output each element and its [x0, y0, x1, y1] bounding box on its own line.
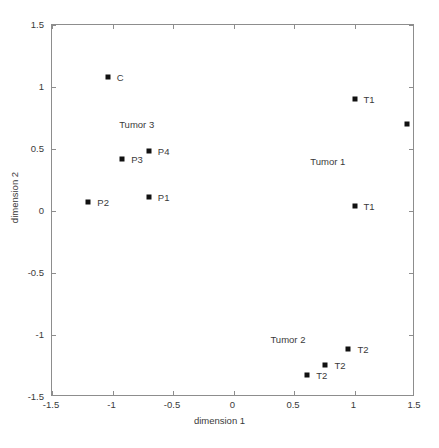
data-point-marker	[352, 204, 357, 209]
y-axis-tick	[409, 273, 413, 274]
data-point-label: T1	[364, 94, 375, 105]
y-axis-tick-label: -1	[36, 329, 44, 340]
x-axis-tick	[355, 391, 356, 395]
data-point-label: P1	[158, 192, 170, 203]
x-axis-tick-label: -1	[107, 399, 115, 410]
data-point-label: T2	[357, 343, 368, 354]
y-axis-tick	[52, 273, 56, 274]
x-axis-tick	[234, 391, 235, 395]
x-axis-tick	[294, 391, 295, 395]
scatter-plot-figure: CP4P3P1P2T1T1T1T2T2T2Tumor 3Tumor 1Tumor…	[0, 0, 439, 448]
x-axis-tick	[113, 391, 114, 395]
x-axis-tick-label: -0.5	[164, 399, 180, 410]
data-point-marker	[146, 195, 151, 200]
data-point-label: T2	[334, 359, 345, 370]
y-axis-tick-label: 1	[39, 81, 44, 92]
y-axis-tick-label: 0.5	[31, 143, 44, 154]
y-axis-tick	[52, 87, 56, 88]
data-point-marker	[352, 97, 357, 102]
data-point-marker	[86, 200, 91, 205]
y-axis-tick	[52, 149, 56, 150]
x-axis-tick-label: 1.5	[407, 399, 420, 410]
data-point-marker	[323, 362, 328, 367]
x-axis-tick	[234, 25, 235, 29]
group-annotation-label: Tumor 1	[310, 156, 345, 167]
data-point-marker	[146, 149, 151, 154]
x-axis-tick-label: 0	[230, 399, 235, 410]
data-point-marker	[305, 372, 310, 377]
plot-area: CP4P3P1P2T1T1T1T2T2T2Tumor 3Tumor 1Tumor…	[51, 24, 414, 396]
group-annotation-label: Tumor 2	[270, 333, 305, 344]
x-axis-tick-label: -1.5	[43, 399, 59, 410]
x-axis-tick	[52, 391, 53, 395]
data-point-label: P3	[131, 153, 143, 164]
data-point-label: T2	[316, 369, 327, 380]
x-axis-tick	[113, 25, 114, 29]
y-axis-tick	[409, 211, 413, 212]
y-axis-label: dimension 2	[9, 158, 20, 238]
data-point-label: P4	[158, 146, 170, 157]
data-point-marker	[120, 156, 125, 161]
y-axis-tick-label: -1.5	[28, 391, 44, 402]
data-point-label: T1	[364, 201, 375, 212]
y-axis-tick-label: 1.5	[31, 19, 44, 30]
y-axis-tick	[409, 87, 413, 88]
group-annotation-label: Tumor 3	[119, 119, 154, 130]
x-axis-tick-label: 0.5	[286, 399, 299, 410]
y-axis-tick	[409, 335, 413, 336]
x-axis-tick	[173, 391, 174, 395]
data-point-marker	[105, 75, 110, 80]
y-axis-tick	[52, 211, 56, 212]
y-axis-tick	[52, 25, 56, 26]
data-point-marker	[404, 122, 409, 127]
data-point-label: P2	[97, 197, 109, 208]
y-axis-tick	[409, 25, 413, 26]
x-axis-label: dimension 1	[0, 415, 439, 426]
y-axis-tick-label: -0.5	[28, 267, 44, 278]
x-axis-tick	[173, 25, 174, 29]
y-axis-tick	[52, 335, 56, 336]
data-point-marker	[346, 346, 351, 351]
data-point-label: C	[117, 72, 124, 83]
x-axis-tick	[355, 25, 356, 29]
y-axis-tick-label: 0	[39, 205, 44, 216]
y-axis-tick	[409, 149, 413, 150]
x-axis-tick-label: 1	[351, 399, 356, 410]
x-axis-tick	[294, 25, 295, 29]
